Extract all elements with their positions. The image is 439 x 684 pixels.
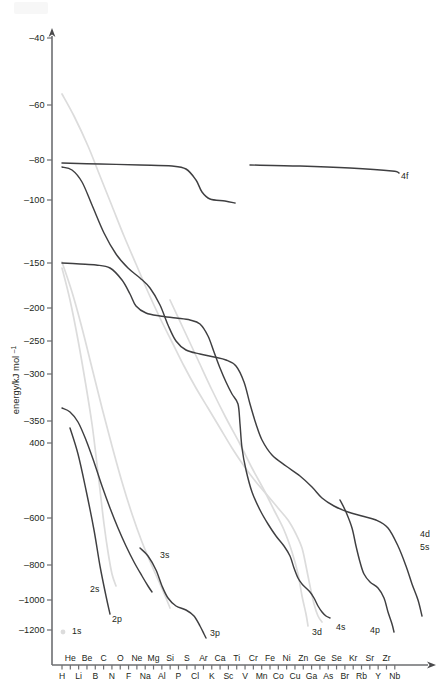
y-axis-tick-label: –800 bbox=[24, 560, 44, 570]
series-label-3p: 3p bbox=[210, 628, 220, 638]
x-axis-label-top: Kr bbox=[349, 653, 358, 663]
svg-text:energy/kJ mol –1: energy/kJ mol –1 bbox=[10, 346, 22, 415]
x-axis-label-bottom: Mn bbox=[256, 671, 268, 681]
y-axis-tick-label: –1200 bbox=[19, 625, 45, 635]
y-axis-tick-label: –40 bbox=[29, 33, 44, 43]
y-axis-tick-label: –600 bbox=[24, 513, 44, 523]
x-axis-label-top: Zn bbox=[298, 653, 308, 663]
x-axis-label-top: S bbox=[184, 653, 190, 663]
y-axis-tick-label: –200 bbox=[24, 303, 44, 313]
x-axis-label-top: Ni bbox=[283, 653, 291, 663]
x-axis-label-bottom: Al bbox=[158, 671, 166, 681]
x-axis-label-bottom: Cl bbox=[191, 671, 199, 681]
x-axis-label-top: He bbox=[65, 653, 76, 663]
y-axis-tick-label: –350 bbox=[24, 416, 44, 426]
series-label-1s: 1s bbox=[72, 626, 82, 636]
curve-4p bbox=[340, 500, 394, 632]
x-axis-label-top: Cr bbox=[249, 653, 258, 663]
series-label-4s: 4s bbox=[336, 622, 346, 632]
y-axis-tick-label: –250 bbox=[24, 336, 44, 346]
curve-4s bbox=[62, 94, 322, 622]
x-axis-label-top: O bbox=[117, 653, 124, 663]
y-axis-arrowhead bbox=[49, 28, 56, 37]
x-axis-label-top: Fe bbox=[265, 653, 275, 663]
x-axis-label-bottom: Br bbox=[341, 671, 350, 681]
x-axis-label-bottom: B bbox=[92, 671, 98, 681]
x-axis-label-top: Ca bbox=[215, 653, 226, 663]
x-axis-label-top: C bbox=[100, 653, 106, 663]
curve-3d bbox=[62, 263, 330, 618]
x-axis-label-bottom: Y bbox=[375, 671, 381, 681]
curve-4f bbox=[250, 165, 399, 173]
x-axis-label-bottom: V bbox=[242, 671, 248, 681]
x-axis-label-bottom: Li bbox=[75, 671, 82, 681]
chart-plot-area: –40–60–80–100–150–200–250–300–350400–600… bbox=[0, 0, 439, 684]
x-axis-label-bottom: Nb bbox=[389, 671, 400, 681]
x-axis-label-top: Si bbox=[166, 653, 174, 663]
y-axis-tick-label: –300 bbox=[24, 369, 44, 379]
series-label-2p: 2p bbox=[112, 614, 122, 624]
x-axis-label-bottom: Na bbox=[140, 671, 151, 681]
series-label-4f: 4f bbox=[401, 171, 409, 181]
x-axis-label-bottom: F bbox=[126, 671, 131, 681]
curve-3s bbox=[62, 408, 152, 592]
y-axis-tick-label: 400 bbox=[29, 438, 44, 448]
curve-2s bbox=[62, 268, 116, 586]
series-label-3s: 3s bbox=[160, 550, 170, 560]
x-axis-label-top: Se bbox=[331, 653, 342, 663]
x-axis-label-bottom: Co bbox=[273, 671, 284, 681]
x-axis-label-top: Ti bbox=[233, 653, 240, 663]
orbital-energy-chart: –40–60–80–100–150–200–250–300–350400–600… bbox=[0, 0, 439, 684]
x-axis-label-bottom: Ga bbox=[306, 671, 318, 681]
y-axis-tick-label: –80 bbox=[29, 155, 44, 165]
x-axis-label-bottom: K bbox=[209, 671, 215, 681]
x-axis-label-bottom: Sc bbox=[223, 671, 234, 681]
x-axis-label-bottom: Rb bbox=[356, 671, 367, 681]
curve-light-aux-2 bbox=[170, 300, 308, 626]
series-label-4d: 4d bbox=[420, 529, 430, 539]
x-axis-label-bottom: Cu bbox=[289, 671, 300, 681]
x-axis-label-top: Ge bbox=[314, 653, 326, 663]
curve-marker-1s bbox=[61, 630, 66, 635]
x-axis-label-top: Be bbox=[82, 653, 93, 663]
x-axis-label-top: Zr bbox=[382, 653, 390, 663]
x-axis-label-bottom: As bbox=[323, 671, 333, 681]
curve-4d-5s bbox=[62, 167, 422, 616]
y-axis-title: energy/kJ mol –1 bbox=[10, 346, 22, 415]
y-axis-tick-label: –100 bbox=[24, 195, 44, 205]
x-axis-label-bottom: H bbox=[59, 671, 65, 681]
y-axis-tick-label: –60 bbox=[29, 100, 44, 110]
y-axis-tick-label: –1000 bbox=[19, 595, 45, 605]
curve-light-aux-1 bbox=[62, 262, 170, 608]
y-axis-tick-label: –150 bbox=[24, 258, 44, 268]
x-axis-label-bottom: P bbox=[176, 671, 182, 681]
x-axis-label-top: Sr bbox=[366, 653, 375, 663]
series-label-2s: 2s bbox=[90, 584, 100, 594]
x-axis-label-bottom: N bbox=[109, 671, 115, 681]
x-axis-label-top: Ar bbox=[199, 653, 208, 663]
series-label-4p: 4p bbox=[370, 625, 380, 635]
series-label-3d: 3d bbox=[312, 627, 322, 637]
x-axis-arrowhead bbox=[427, 662, 436, 669]
x-axis-label-top: Ne bbox=[131, 653, 142, 663]
series-label-5s: 5s bbox=[420, 542, 430, 552]
x-axis-label-top: Mg bbox=[148, 653, 160, 663]
